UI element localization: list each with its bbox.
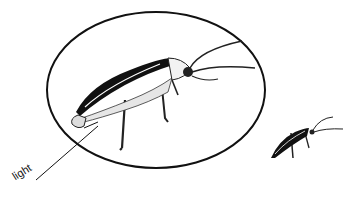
firefly-illustration xyxy=(0,0,356,197)
small-firefly xyxy=(271,117,343,158)
large-firefly xyxy=(72,41,255,150)
